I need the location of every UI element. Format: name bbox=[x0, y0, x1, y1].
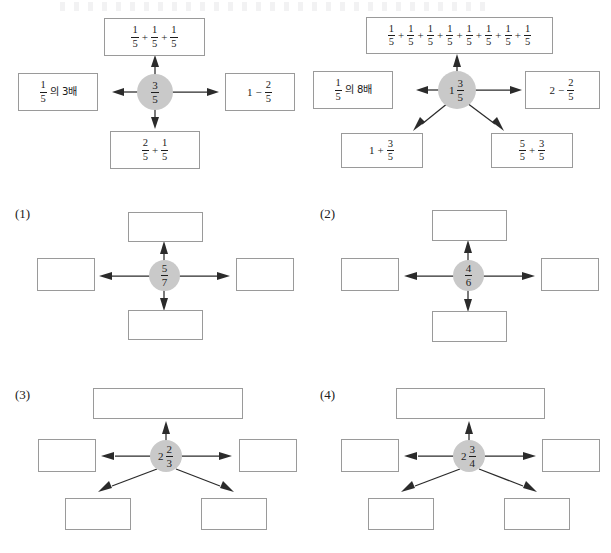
expression-two-minus-two-fifths: 2 − 25 bbox=[550, 78, 576, 102]
hub-expression: 1 35 bbox=[449, 78, 465, 103]
expression-five-fifths-plus-three-fifths: 55 + 35 bbox=[518, 139, 547, 163]
example-2-center-value: 1 35 bbox=[438, 71, 476, 109]
diagram-problem-4: (4) 2 34 bbox=[305, 376, 611, 553]
problem-4-center-value: 2 34 bbox=[453, 440, 485, 472]
problem-3-box-bottom-right[interactable] bbox=[201, 498, 267, 530]
problem-2-box-right[interactable] bbox=[541, 258, 599, 291]
expression-sum-eight-fifths: 15+ 15+ 15+ 15+ 15+ 15+ 15+ 15 bbox=[387, 24, 533, 48]
problem-3-box-left[interactable] bbox=[38, 439, 96, 472]
expression-one-fifth-times-eight: 15 의 8배 bbox=[334, 78, 373, 102]
example-1-box-top: 15 + 15 + 15 bbox=[104, 18, 205, 56]
arrow-line-down-left bbox=[415, 469, 460, 486]
arrow-head-up bbox=[160, 241, 168, 254]
expression-sum-three-fifths: 15 + 15 + 15 bbox=[130, 25, 178, 49]
problem-3-box-right[interactable] bbox=[239, 439, 297, 472]
problem-4-box-top[interactable] bbox=[396, 388, 545, 419]
worksheet-page: 15 + 15 + 15 15 의 3배 1 − 25 25 bbox=[0, 0, 611, 553]
arrow-head-up bbox=[162, 421, 170, 434]
problem-3-box-top[interactable] bbox=[93, 388, 243, 419]
arrow-head-left bbox=[404, 452, 417, 460]
arrow-line-down-right bbox=[467, 103, 495, 124]
diagram-example-1: 15 + 15 + 15 15 의 3배 1 − 25 25 bbox=[0, 0, 305, 190]
arrow-head-right bbox=[510, 86, 522, 94]
arrow-head-up bbox=[464, 240, 472, 253]
expression-one-plus-three-fifths: 1 + 35 bbox=[369, 139, 395, 163]
problem-2-box-left[interactable] bbox=[341, 258, 399, 291]
hub-expression: 46 bbox=[464, 263, 474, 288]
problem-2-box-bottom[interactable] bbox=[432, 311, 507, 342]
problem-3-box-bottom-left[interactable] bbox=[65, 498, 131, 530]
arrow-head-down bbox=[151, 117, 159, 129]
example-2-box-left: 15 의 8배 bbox=[313, 71, 393, 109]
arrow-head-right bbox=[219, 452, 232, 460]
arrow-head-left bbox=[101, 452, 114, 460]
arrow-head-right bbox=[217, 272, 230, 280]
diagram-problem-3: (3) 2 23 bbox=[0, 376, 305, 553]
hub-expression: 57 bbox=[160, 263, 170, 288]
hub-expression: 35 bbox=[150, 80, 160, 105]
arrow-head-right bbox=[522, 272, 535, 280]
problem-4-box-bottom-right[interactable] bbox=[504, 498, 570, 530]
problem-2-box-top[interactable] bbox=[432, 210, 507, 241]
arrow-line-down-left bbox=[112, 469, 157, 486]
problem-1-box-right[interactable] bbox=[236, 258, 294, 291]
arrow-line-down-right bbox=[176, 469, 220, 486]
hub-expression: 2 23 bbox=[158, 444, 174, 469]
problem-3-center-value: 2 23 bbox=[150, 440, 182, 472]
arrow-head-up bbox=[151, 55, 159, 67]
expression-one-fifth-times-three: 15 의 3배 bbox=[39, 80, 78, 104]
arrow-head-down-left bbox=[401, 481, 415, 492]
arrow-head-up bbox=[453, 54, 461, 67]
example-2-box-right: 2 − 25 bbox=[525, 71, 600, 109]
arrow-head-up bbox=[465, 421, 473, 434]
problem-4-box-left[interactable] bbox=[341, 439, 399, 472]
problem-1-box-top[interactable] bbox=[128, 212, 203, 242]
arrow-head-left bbox=[112, 88, 124, 96]
arrow-head-left bbox=[416, 86, 428, 94]
problem-2-center-value: 46 bbox=[453, 260, 484, 291]
problem-4-box-bottom-left[interactable] bbox=[368, 498, 434, 530]
example-1-box-right: 1 − 25 bbox=[225, 73, 295, 111]
arrow-head-down-right bbox=[220, 481, 234, 492]
arrow-head-right bbox=[523, 452, 536, 460]
example-1-center-value: 35 bbox=[137, 74, 173, 110]
example-2-box-top: 15+ 15+ 15+ 15+ 15+ 15+ 15+ 15 bbox=[366, 17, 553, 54]
arrow-head-down-left bbox=[413, 117, 425, 131]
expression-two-fifths-plus-one-fifth: 25 + 15 bbox=[141, 138, 170, 162]
example-2-box-bottom-right: 55 + 35 bbox=[491, 133, 573, 168]
hub-expression: 2 34 bbox=[461, 444, 477, 469]
diagram-problem-2: (2) 46 bbox=[305, 196, 611, 346]
arrow-line-down-right bbox=[479, 469, 523, 486]
problem-1-center-value: 57 bbox=[149, 260, 180, 291]
arrow-head-down-right bbox=[492, 117, 504, 131]
arrow-head-left bbox=[404, 272, 417, 280]
arrow-head-down-left bbox=[98, 481, 112, 492]
problem-4-box-right[interactable] bbox=[542, 439, 600, 472]
diagram-problem-1: (1) 57 bbox=[0, 196, 305, 346]
diagram-example-2: 15+ 15+ 15+ 15+ 15+ 15+ 15+ 15 15 의 8배 2… bbox=[305, 0, 611, 190]
problem-1-box-bottom[interactable] bbox=[128, 310, 203, 340]
example-1-box-bottom: 25 + 15 bbox=[110, 131, 200, 169]
example-2-box-bottom-left: 1 + 35 bbox=[341, 133, 423, 168]
problem-1-box-left[interactable] bbox=[37, 258, 95, 291]
arrow-head-left bbox=[99, 272, 112, 280]
arrow-line-down-left bbox=[422, 103, 448, 124]
expression-one-minus-two-fifths: 1 − 25 bbox=[247, 80, 273, 104]
arrow-head-right bbox=[207, 88, 219, 96]
arrow-head-down-right bbox=[523, 481, 537, 492]
example-1-box-left: 15 의 3배 bbox=[18, 73, 98, 111]
